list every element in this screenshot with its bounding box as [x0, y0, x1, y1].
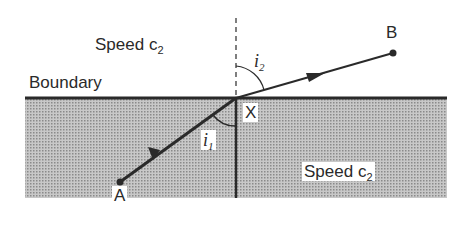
- point-a-dot: [117, 179, 124, 186]
- refracted-arrow-icon: [306, 73, 325, 82]
- upper-speed-label: Speed c2: [95, 36, 164, 53]
- angle-i1-label: i1: [201, 130, 216, 150]
- angle-i2-label: i2: [254, 52, 265, 70]
- boundary-label: Boundary: [29, 74, 102, 91]
- lower-speed-label: Speed c2: [302, 162, 375, 181]
- point-b-label: B: [386, 24, 397, 41]
- point-a-label: A: [112, 186, 127, 205]
- point-x-label: X: [243, 103, 258, 122]
- point-b-dot: [390, 50, 397, 57]
